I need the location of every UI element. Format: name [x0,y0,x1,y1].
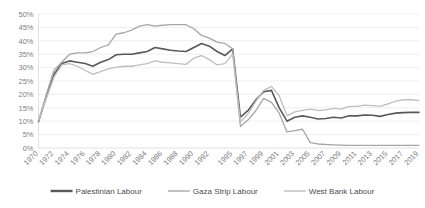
x-tick-label: 1972 [37,149,55,167]
x-tick-label: 2013 [356,149,374,167]
y-tick-label: 50% [18,10,33,19]
x-tick-label: 2009 [325,149,343,167]
chart-canvas: 0%5%10%15%20%25%30%35%40%45%50% 19701972… [0,0,425,208]
series-line-palestinian-labour [39,43,420,121]
y-tick-label: 40% [18,37,33,46]
x-tick-label: 1988 [162,149,180,167]
x-tick-label: 1976 [68,149,86,167]
x-tick-label: 2017 [387,149,405,167]
legend-item[interactable]: Gaza Strip Labour [168,187,258,196]
legend-item[interactable]: Palestinian Labour [51,187,143,196]
x-tick-label: 2011 [341,149,359,167]
legend-item[interactable]: West Bank Labour [284,187,375,196]
y-tick-label: 45% [18,23,33,32]
x-tick-label: 2001 [262,149,280,167]
x-tick-label: 2007 [309,149,327,167]
x-tick-label: 1990 [177,149,195,167]
x-tick-label: 1995 [216,149,234,167]
y-tick-label: 5% [23,130,34,139]
x-tick-label: 2005 [294,149,312,167]
legend-label: Gaza Strip Labour [193,187,258,196]
x-tick-label: 1974 [53,149,71,167]
x-axis-tick-labels: 1970197219741976197819801982198419861988… [22,149,421,167]
y-axis-tick-labels: 0%5%10%15%20%25%30%35%40%45%50% [18,10,33,153]
y-tick-label: 35% [18,50,33,59]
legend-label: Palestinian Labour [76,187,143,196]
line-chart: 0%5%10%15%20%25%30%35%40%45%50% 19701972… [0,0,425,208]
y-tick-label: 30% [18,63,33,72]
y-tick-label: 25% [18,77,33,86]
x-tick-label: 1978 [84,149,102,167]
x-tick-label: 2003 [278,149,296,167]
gridlines [39,14,420,148]
legend-label: West Bank Labour [309,187,375,196]
y-tick-label: 20% [18,90,33,99]
x-tick-label: 1986 [146,149,164,167]
x-tick-label: 1997 [231,149,249,167]
x-tick-label: 1982 [115,149,133,167]
x-tick-label: 1999 [247,149,265,167]
series-line-gaza-strip-labour [39,25,420,146]
x-tick-label: 2015 [371,149,389,167]
data-series [39,25,420,146]
x-tick-label: 1992 [193,149,211,167]
y-tick-label: 10% [18,117,33,126]
y-tick-label: 15% [18,104,33,113]
x-tick-label: 1984 [130,149,148,167]
x-tick-label: 2019 [402,149,420,167]
chart-legend: Palestinian LabourGaza Strip LabourWest … [51,187,375,196]
x-tick-label: 1980 [99,149,117,167]
